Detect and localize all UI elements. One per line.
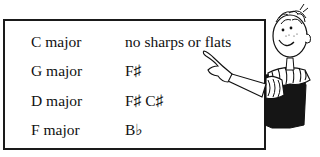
key-name: D major [31,92,82,110]
key-signature: F♯ [125,62,141,80]
key-signature: B♭ [125,121,143,139]
key-name: G major [31,62,82,80]
key-name: C major [31,33,81,51]
key-signature: F♯ C♯ [125,92,163,110]
key-signature-table: C major no sharps or flats G major F♯ D … [3,19,266,150]
key-signature: no sharps or flats [125,33,231,51]
key-name: F major [31,121,80,139]
